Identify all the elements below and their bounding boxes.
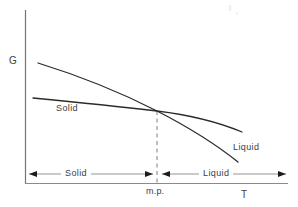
solid-region-label: Solid — [61, 169, 91, 178]
x-axis-label: T — [241, 190, 247, 200]
diagram-canvas — [0, 0, 298, 207]
liquid-region-label: Liquid — [199, 169, 233, 178]
liquid-curve-label: Liquid — [233, 143, 259, 152]
scan-artifact — [236, 12, 238, 15]
y-axis-label: G — [9, 56, 17, 66]
g-vs-t-phase-diagram: G Solid Liquid Solid Liquid m.p. T — [0, 0, 298, 207]
solid-curve-label: Solid — [56, 104, 78, 113]
melting-point-label: m.p. — [146, 187, 164, 196]
scan-artifact — [229, 5, 231, 11]
